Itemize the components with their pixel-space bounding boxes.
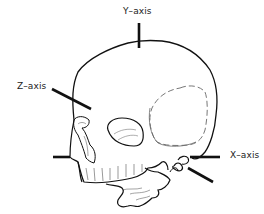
x-axis-line-diagonal: [188, 168, 213, 182]
cranium-outline: [73, 40, 217, 158]
mandible: [106, 168, 170, 207]
skull-axes-diagram: Y–axis Z–axis X–axis: [0, 0, 264, 214]
temporal-line: [149, 108, 196, 146]
temporal-dashed-outline: [150, 86, 207, 146]
y-axis-label: Y–axis: [123, 6, 152, 16]
face-left-outline: [70, 120, 82, 182]
nasal-cavity: [74, 117, 96, 163]
z-axis-label: Z–axis: [17, 81, 46, 91]
eye-socket: [108, 118, 144, 146]
x-axis-label: X–axis: [230, 150, 259, 160]
ear-condyle: [173, 156, 189, 171]
skull-illustration: [0, 0, 264, 214]
z-axis-line: [52, 89, 91, 109]
